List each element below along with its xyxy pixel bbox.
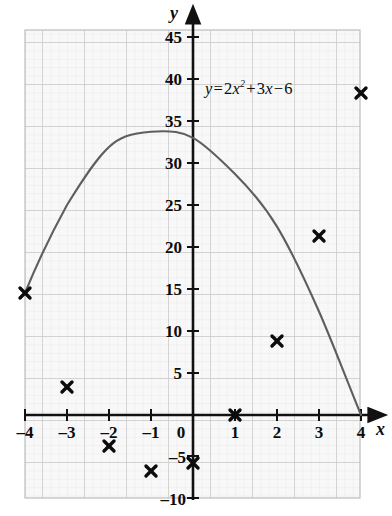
y-tick-label-45: 45 <box>165 29 182 46</box>
x-tick-label-0: 0 <box>177 424 186 441</box>
equation-const: 6 <box>284 79 292 98</box>
equation-annotation: y=2x2+3x−6 <box>205 78 293 99</box>
x-tick-label-neg3: –3 <box>59 424 76 441</box>
equation-y: y <box>205 79 213 98</box>
equation-var-x2: x <box>265 79 273 98</box>
y-tick-label-10: 10 <box>165 323 182 340</box>
x-tick-label-neg1: –1 <box>143 424 160 441</box>
x-tick-label-4: 4 <box>357 424 366 441</box>
y-tick-label-5: 5 <box>174 365 183 382</box>
y-tick-label-neg10: –10 <box>161 491 187 508</box>
graph-figure: 45 40 35 30 25 20 15 10 5 –5 –10 –4 –3 –… <box>0 0 392 516</box>
equation-var-x: x <box>233 79 241 98</box>
x-tick-label-neg4: –4 <box>17 424 34 441</box>
y-tick-label-30: 30 <box>165 155 182 172</box>
x-tick-label-2: 2 <box>273 424 282 441</box>
y-tick-label-25: 25 <box>165 197 182 214</box>
x-tick-label-1: 1 <box>231 424 240 441</box>
equation-coef-a: 2 <box>224 79 232 98</box>
equation-plus: + <box>245 79 257 98</box>
x-tick-label-3: 3 <box>315 424 324 441</box>
x-axis-label: x <box>376 420 385 438</box>
equation-equals: = <box>213 79 225 98</box>
y-tick-label-20: 20 <box>165 239 182 256</box>
x-tick-label-neg2: –2 <box>101 424 118 441</box>
y-tick-label-15: 15 <box>165 281 182 298</box>
y-tick-label-35: 35 <box>165 113 182 130</box>
equation-minus: − <box>273 79 285 98</box>
y-tick-label-40: 40 <box>165 71 182 88</box>
y-axis-label: y <box>170 4 178 22</box>
y-tick-label-neg5: –5 <box>169 449 186 466</box>
equation-coef-b: 3 <box>257 79 265 98</box>
